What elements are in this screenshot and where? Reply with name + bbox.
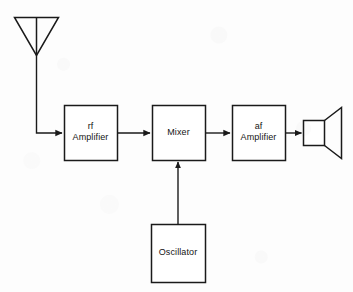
diagram-canvas: rf Amplifier Mixer af Amplifier Oscillat… xyxy=(0,0,353,292)
diagram-vector-layer xyxy=(0,0,353,292)
block-rf-amplifier xyxy=(65,106,118,161)
block-af-amplifier xyxy=(233,106,286,161)
loudspeaker-icon xyxy=(304,108,342,159)
block-oscillator xyxy=(152,225,206,283)
block-mixer xyxy=(153,106,206,161)
connector-antenna-to-rf-amplifier xyxy=(37,56,63,134)
antenna-icon xyxy=(15,18,59,56)
